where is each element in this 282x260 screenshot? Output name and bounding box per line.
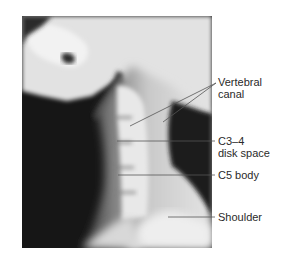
label-text: C5 body — [218, 169, 259, 181]
label-text: canal — [218, 88, 262, 100]
label-text: C3–4 — [218, 135, 270, 147]
label-text: Vertebral — [218, 76, 262, 88]
label-text: Shoulder — [218, 211, 262, 223]
label-vertebral-canal: Vertebral canal — [218, 76, 262, 100]
label-shoulder: Shoulder — [218, 211, 262, 223]
leader-line-vertebral-canal-1 — [130, 83, 216, 126]
label-c5-body: C5 body — [218, 169, 259, 181]
label-c3-4-disk-space: C3–4 disk space — [218, 135, 270, 159]
label-text: disk space — [218, 147, 270, 159]
leader-line-vertebral-canal-2 — [163, 83, 216, 122]
